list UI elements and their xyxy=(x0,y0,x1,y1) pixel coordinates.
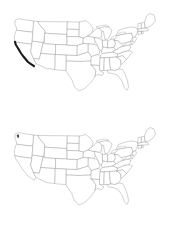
state-arkansas[interactable] xyxy=(91,169,101,180)
us-states-map-bottom[interactable] xyxy=(0,114,174,228)
state-mississippi[interactable] xyxy=(100,58,105,71)
state-delaware[interactable] xyxy=(131,41,133,45)
state-vermont[interactable] xyxy=(138,137,142,143)
state-rhode-island[interactable] xyxy=(142,31,143,34)
map-top-states xyxy=(14,14,155,92)
state-arkansas[interactable] xyxy=(91,55,101,66)
state-mississippi[interactable] xyxy=(100,172,105,185)
figure-container xyxy=(0,0,174,228)
state-florida[interactable] xyxy=(108,183,129,205)
state-indiana[interactable] xyxy=(103,40,109,48)
state-delaware[interactable] xyxy=(131,155,133,159)
map-bottom-states xyxy=(14,128,155,206)
state-wyoming[interactable] xyxy=(45,147,68,159)
state-florida[interactable] xyxy=(108,69,129,91)
state-new-mexico[interactable] xyxy=(55,55,67,71)
state-north-dakota[interactable] xyxy=(67,136,79,144)
state-wyoming[interactable] xyxy=(45,33,68,45)
state-maine[interactable] xyxy=(145,14,156,28)
state-utah[interactable] xyxy=(41,43,56,55)
state-north-dakota[interactable] xyxy=(67,22,79,30)
state-rhode-island[interactable] xyxy=(142,145,143,148)
map-bottom-svg[interactable] xyxy=(0,114,174,228)
state-colorado[interactable] xyxy=(55,45,77,56)
state-new-mexico[interactable] xyxy=(55,169,67,185)
state-vermont[interactable] xyxy=(138,23,142,29)
state-south-dakota[interactable] xyxy=(67,29,79,37)
state-maine[interactable] xyxy=(145,128,156,142)
state-indiana[interactable] xyxy=(103,154,109,162)
state-south-dakota[interactable] xyxy=(67,143,79,151)
state-colorado[interactable] xyxy=(55,159,77,170)
state-utah[interactable] xyxy=(41,157,56,169)
us-states-map-top[interactable] xyxy=(0,0,174,114)
map-top-svg[interactable] xyxy=(0,0,174,114)
